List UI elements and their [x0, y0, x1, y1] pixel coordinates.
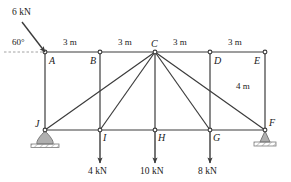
- member-C-I: [100, 52, 155, 130]
- joint-B: [98, 50, 102, 54]
- load-6kN-at-A-angle-label: 60°: [12, 38, 25, 47]
- roller-support-F: [254, 131, 276, 146]
- pin-support-J: [31, 131, 59, 148]
- joint-label-B: B: [90, 56, 96, 66]
- truss-supports: [31, 131, 276, 148]
- truss-diagram: ABCDEFGHIJ3 m3 m3 m3 m4 m6 kN60°4 kN10 k…: [0, 0, 291, 182]
- span-dimension-2: 3 m: [118, 38, 132, 47]
- truss-canvas: [0, 0, 291, 182]
- joint-label-D: D: [214, 56, 221, 66]
- joint-F: [263, 128, 267, 132]
- load-10kN-at-H-label: 10 kN: [140, 167, 164, 177]
- span-dimension-1: 3 m: [63, 38, 77, 47]
- load-6kN-at-A-label: 6 kN: [12, 8, 31, 18]
- joint-label-C: C: [151, 39, 158, 49]
- height-dimension: 4 m: [236, 82, 250, 91]
- truss-members: [45, 52, 265, 130]
- joint-label-H: H: [158, 133, 165, 143]
- joint-I: [98, 128, 102, 132]
- joint-label-F: F: [269, 118, 275, 128]
- joint-G: [208, 128, 212, 132]
- joint-label-E: E: [254, 56, 260, 66]
- joint-label-G: G: [213, 133, 220, 143]
- joint-C: [153, 50, 157, 54]
- member-C-G: [155, 52, 210, 130]
- joint-H: [153, 128, 157, 132]
- joint-E: [263, 50, 267, 54]
- joint-D: [208, 50, 212, 54]
- joint-label-J: J: [35, 119, 39, 129]
- span-dimension-4: 3 m: [228, 38, 242, 47]
- joint-label-A: A: [49, 56, 55, 66]
- joint-label-I: I: [103, 133, 106, 143]
- load-8kN-at-G-label: 8 kN: [198, 167, 217, 177]
- span-dimension-3: 3 m: [173, 38, 187, 47]
- load-6kN-at-A-arrow: [22, 22, 45, 52]
- load-4kN-at-I-label: 4 kN: [88, 167, 107, 177]
- joint-J: [43, 128, 47, 132]
